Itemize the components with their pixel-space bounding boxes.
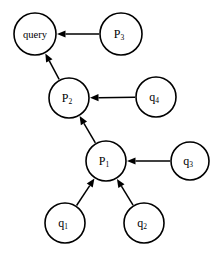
graph-edge-q1-to-p1 xyxy=(77,179,95,206)
graph-edge-q3-to-p1 xyxy=(127,157,170,164)
graph-node-q4[interactable]: q4 xyxy=(136,77,176,117)
graph-edge-p2-to-query xyxy=(45,53,59,79)
graph-edge-p1-to-p2 xyxy=(80,116,96,143)
graph-node-q1[interactable]: q1 xyxy=(45,203,85,243)
edge-shaft xyxy=(77,186,90,206)
node-layer: queryP3P2q4P1q3q1q2 xyxy=(14,13,209,243)
edge-shaft xyxy=(121,186,133,205)
graph-node-q3[interactable]: q3 xyxy=(171,142,209,180)
edge-shaft xyxy=(49,61,59,80)
graph-node-query[interactable]: query xyxy=(14,13,56,55)
arrowhead-icon xyxy=(90,94,99,101)
graph-node-p3[interactable]: P3 xyxy=(100,13,142,55)
graph-edge-p3-to-query xyxy=(57,30,99,37)
edge-shaft xyxy=(84,123,95,142)
graph-node-p2[interactable]: P2 xyxy=(49,78,89,118)
arrowhead-icon xyxy=(87,179,95,188)
node-label-query: query xyxy=(23,29,48,40)
graph-diagram: queryP3P2q4P1q3q1q2 xyxy=(0,0,223,260)
arrowhead-icon xyxy=(127,157,136,164)
graph-canvas: queryP3P2q4P1q3q1q2 xyxy=(0,0,223,260)
graph-edge-q4-to-p2 xyxy=(90,94,135,101)
graph-node-p1[interactable]: P1 xyxy=(86,141,126,181)
graph-edge-q2-to-p1 xyxy=(117,179,133,205)
graph-node-q2[interactable]: q2 xyxy=(124,203,164,243)
arrowhead-icon xyxy=(117,179,125,188)
arrowhead-icon xyxy=(57,30,66,37)
